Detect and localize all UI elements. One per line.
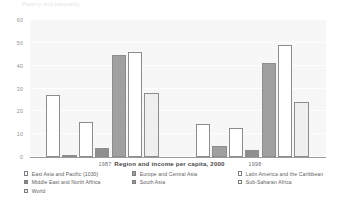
legend-item[interactable]: Middle East and North Affrica: [24, 179, 130, 186]
bar: [128, 52, 142, 157]
bar: [262, 63, 276, 157]
legend-swatch-icon: [132, 180, 136, 184]
bar: [212, 146, 226, 157]
chart-container: 0102030405060 19871998: [0, 12, 339, 162]
y-tick-label: 40: [0, 63, 23, 69]
y-tick-label: 30: [0, 86, 23, 92]
bar: [62, 155, 76, 157]
legend-column-3: Latin America and the CaribbeanSub-Sahar…: [238, 170, 339, 187]
legend-item-label: Sub-Saharan Africa: [246, 179, 292, 185]
page-header-strip: Poverty and inequality: [0, 0, 339, 12]
legend-column-1: East Asia and Pacific (1030)Middle East …: [24, 170, 130, 196]
legend-item[interactable]: East Asia and Pacific (1030): [24, 170, 130, 177]
legend-item[interactable]: Sub-Saharan Africa: [238, 179, 339, 186]
bar: [79, 122, 93, 157]
bar: [278, 45, 292, 157]
legend-item-label: Middle East and North Affrica: [32, 179, 101, 185]
legend-swatch-icon: [24, 180, 28, 184]
legend-item[interactable]: Latin America and the Caribbean: [238, 170, 339, 177]
legend-swatch-icon: [24, 189, 28, 193]
x-axis-line: [30, 157, 326, 158]
bar-group-1987: 1987: [46, 20, 164, 157]
y-tick-label: 20: [0, 108, 23, 114]
bar: [245, 150, 259, 157]
bar: [46, 95, 60, 157]
bar: [294, 102, 308, 157]
legend-item-label: World: [32, 188, 46, 194]
legend-column-2: Europe and Central AsiaSouth Asia: [132, 170, 236, 187]
legend-swatch-icon: [238, 171, 242, 175]
y-tick-label: 60: [0, 17, 23, 23]
header-ghost-text: Poverty and inequality: [22, 1, 80, 7]
bar-group-1998: 1998: [196, 20, 314, 157]
y-tick-label: 10: [0, 131, 23, 137]
legend-swatch-icon: [24, 171, 28, 175]
bar: [229, 128, 243, 157]
legend-swatch-icon: [238, 180, 242, 184]
bar: [112, 55, 126, 157]
legend-item[interactable]: Europe and Central Asia: [132, 170, 236, 177]
legend-item-label: East Asia and Pacific (1030): [32, 171, 99, 177]
y-tick-label: 50: [0, 40, 23, 46]
plot-area: 0102030405060 19871998: [30, 20, 326, 158]
legend-item[interactable]: South Asia: [132, 179, 236, 186]
legend-item-label: Europe and Central Asia: [140, 171, 198, 177]
legend-item-label: South Asia: [140, 179, 165, 185]
chart-legend: East Asia and Pacific (1030)Middle East …: [0, 170, 339, 206]
bar: [196, 124, 210, 157]
legend-item[interactable]: World: [24, 187, 130, 194]
bar: [95, 148, 109, 157]
bar: [144, 93, 158, 157]
legend-swatch-icon: [132, 171, 136, 175]
legend-item-label: Latin America and the Caribbean: [246, 171, 323, 177]
x-axis-title: Region and income per capita, 2000: [0, 160, 339, 167]
